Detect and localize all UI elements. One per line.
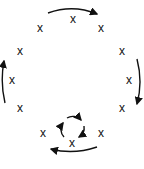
x-mark: x [40, 126, 46, 140]
circular-motion-diagram: xxxxxxxxxxxx [0, 0, 144, 169]
x-marks: xxxxxxxxxxxx [9, 12, 132, 150]
x-mark: x [17, 44, 23, 58]
x-mark: x [69, 136, 75, 150]
center-loop-icon [61, 116, 84, 137]
x-mark: x [9, 73, 15, 87]
right-arrow-icon [137, 59, 140, 104]
left-arrow-icon [2, 61, 5, 103]
x-mark: x [17, 101, 23, 115]
x-mark: x [37, 21, 43, 35]
x-mark: x [70, 12, 76, 26]
x-mark: x [98, 126, 104, 140]
x-mark: x [126, 73, 132, 87]
x-mark: x [119, 101, 125, 115]
x-mark: x [98, 21, 104, 35]
x-mark: x [119, 44, 125, 58]
